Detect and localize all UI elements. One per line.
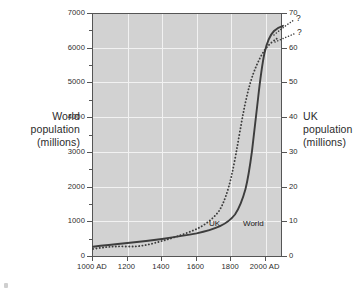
y2-axis-label: 10 — [289, 217, 298, 225]
y-axis-title-line: World — [8, 110, 80, 123]
y2-axis-label: 20 — [289, 183, 298, 191]
x-axis-tick — [127, 256, 128, 261]
y2-axis-tick — [282, 256, 287, 257]
y2-axis-label: 30 — [289, 148, 298, 156]
plot-area: UK World — [92, 13, 282, 256]
y-axis-tick-major — [87, 48, 92, 49]
y-axis-tick-minor — [89, 204, 92, 205]
y-axis-tick-major — [87, 13, 92, 14]
x-axis-label: 2000 AD — [243, 262, 287, 271]
uk-population-curve — [93, 39, 277, 250]
y-axis-tick-major — [87, 221, 92, 222]
y2-axis-label: 70 — [289, 9, 298, 17]
world-population-curve — [93, 26, 283, 247]
series-label-world: World — [243, 219, 264, 228]
population-growth-chart: UK World ? ? 7000 6000 5000 4000 3000 20… — [0, 0, 357, 291]
y-axis-tick-minor — [89, 100, 92, 101]
x-axis-label: 1200 — [110, 262, 143, 271]
y-axis-label: 2000 — [68, 183, 85, 191]
y-axis-tick-minor — [89, 65, 92, 66]
x-axis-tick — [196, 256, 197, 261]
y-axis-title: World population (millions) — [8, 110, 80, 149]
y-axis-title-line: population — [8, 123, 80, 136]
y-axis-tick-major — [87, 117, 92, 118]
y2-axis-tick — [282, 221, 287, 222]
x-axis-tick — [161, 256, 162, 261]
y-axis-label: 3000 — [68, 148, 85, 156]
y2-axis-tick — [282, 187, 287, 188]
y-axis-tick-minor — [89, 169, 92, 170]
x-axis-line — [92, 256, 282, 257]
x-axis-label: 1400 — [145, 262, 178, 271]
y2-axis-label: 50 — [289, 78, 298, 86]
x-axis-tick — [92, 256, 93, 261]
y2-axis-title-line: UK — [303, 110, 357, 123]
y-axis-label: 6000 — [68, 44, 85, 52]
y2-axis-label: 40 — [289, 113, 298, 121]
y2-axis-tick — [282, 13, 287, 14]
y-axis-tick-minor — [89, 135, 92, 136]
y-axis-label: 1000 — [68, 217, 85, 225]
projection-lower-question-mark: ? — [297, 28, 302, 37]
x-axis-tick — [230, 256, 231, 261]
x-axis-label: 1600 — [179, 262, 212, 271]
x-axis-tick — [265, 256, 266, 261]
y-axis-tick-minor — [89, 239, 92, 240]
y2-axis-tick — [282, 48, 287, 49]
y2-axis-title-line: (millions) — [303, 136, 357, 149]
scan-artifact — [4, 283, 8, 288]
y-axis-label: 5000 — [68, 78, 85, 86]
series-label-uk: UK — [209, 219, 220, 228]
y-axis-tick-major — [87, 82, 92, 83]
y2-axis-tick — [282, 152, 287, 153]
y2-axis-label: 60 — [289, 44, 298, 52]
y-axis-title-line: (millions) — [8, 136, 80, 149]
y-axis-label: 0 — [81, 252, 85, 260]
plot-top-border — [92, 13, 282, 14]
y2-axis-title: UK population (millions) — [303, 110, 357, 149]
y2-axis-label: 0 — [289, 252, 293, 260]
y-axis-tick-minor — [89, 30, 92, 31]
x-axis-label: 1000 AD — [70, 262, 114, 271]
y-axis-label: 7000 — [68, 9, 85, 17]
y2-axis-title-line: population — [303, 123, 357, 136]
y2-axis-tick — [282, 117, 287, 118]
y2-axis-tick — [282, 82, 287, 83]
y-axis-tick-major — [87, 187, 92, 188]
y-axis-tick-major — [87, 152, 92, 153]
